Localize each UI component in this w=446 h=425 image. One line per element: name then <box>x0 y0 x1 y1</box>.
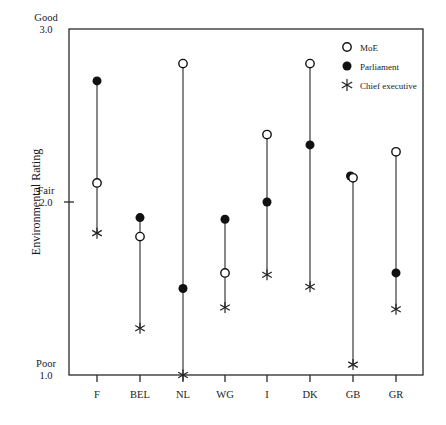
x-tick-label-gr: GR <box>389 389 404 400</box>
parliament-point-dk <box>306 140 315 149</box>
chief-executive-point-gb <box>348 359 358 370</box>
x-tick-label-bel: BEL <box>130 389 150 400</box>
legend-label: Chief executive <box>360 81 417 91</box>
moe-point-bel <box>136 232 144 240</box>
y-tick-label-top: Poor <box>36 358 56 369</box>
parliament-point-gr <box>392 268 401 277</box>
legend-label: MoE <box>360 43 379 53</box>
y-tick-label-value: 1.0 <box>39 370 52 381</box>
y-tick-label-value: 3.0 <box>39 24 52 35</box>
legend-item: Parliament <box>343 62 400 72</box>
moe-point-dk <box>306 59 314 67</box>
moe-point-i <box>263 130 271 138</box>
moe-point-gr <box>392 148 400 156</box>
chief-executive-point-gr <box>391 304 401 315</box>
moe-point-gb <box>349 174 357 182</box>
moe-point-nl <box>179 59 187 67</box>
filled-circle-icon <box>343 62 352 71</box>
x-axis: FBELNLWGIDKGBGR <box>94 375 403 400</box>
data-points <box>92 59 401 380</box>
legend-item: Chief executive <box>342 79 417 91</box>
environmental-rating-chart: Good3.0Fair2.0Poor1.0 Environmental Rati… <box>0 0 446 425</box>
parliament-point-bel <box>136 213 145 222</box>
x-tick-label-f: F <box>94 389 100 400</box>
x-tick-label-gb: GB <box>346 389 361 400</box>
parliament-point-nl <box>179 284 188 293</box>
parliament-point-wg <box>221 215 230 224</box>
x-tick-label-dk: DK <box>302 389 318 400</box>
legend-label: Parliament <box>360 62 399 72</box>
legend-item: MoE <box>343 43 379 53</box>
parliament-point-i <box>263 198 272 207</box>
parliament-point-f <box>93 76 102 85</box>
y-tick-label-top: Good <box>34 12 58 23</box>
chief-executive-point-wg <box>220 302 230 313</box>
x-tick-label-wg: WG <box>216 389 234 400</box>
moe-point-f <box>93 179 101 187</box>
open-circle-icon <box>343 43 351 51</box>
x-tick-label-nl: NL <box>176 389 190 400</box>
y-axis-label: Environmental Rating <box>29 149 43 255</box>
x-tick-label-i: I <box>265 389 269 400</box>
chief-executive-point-bel <box>135 323 145 334</box>
chief-executive-point-f <box>92 228 102 239</box>
moe-point-wg <box>221 269 229 277</box>
chief-executive-point-dk <box>305 281 315 292</box>
legend: MoEParliamentChief executive <box>342 43 417 92</box>
chief-executive-point-i <box>262 269 272 280</box>
asterisk-icon <box>342 79 352 91</box>
